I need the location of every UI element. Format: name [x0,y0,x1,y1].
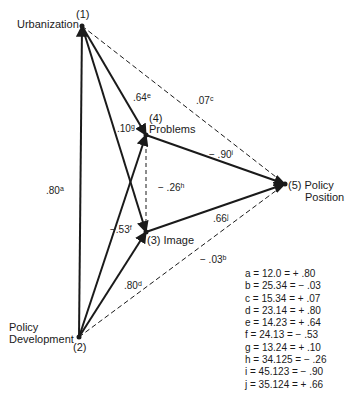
node-5-dot [283,182,288,187]
edge-a-2-1 [79,26,82,337]
coef-j: .66j [213,213,228,224]
coef-f: −.53f [110,224,132,235]
node-4-dot [144,133,149,138]
legend-row-g: g = 13.24 = + .10 [245,342,326,354]
legend-row-e: e = 14.23 = + .64 [245,317,326,329]
legend-row-d: d = 23.14 = + .80 [245,305,326,317]
legend-row-a: a = 12.0 = + .80 [245,268,326,280]
edge-g-1-3 [82,26,146,232]
coef-d: .80d [124,280,142,291]
node-4-label: Problems [149,123,195,135]
coef-c: .07c [196,95,213,106]
legend-row-c: c = 15.34 = + .07 [245,293,326,305]
legend-row-b: b = 25.34 = − .03 [245,280,326,292]
node-5-label-line1: (5) Policy [288,179,334,191]
node-1-label: Urbanization [17,18,79,30]
coefficient-legend: a = 12.0 = + .80 b = 25.34 = − .03 c = 1… [245,268,326,391]
coef-h: − .26h [158,182,184,193]
coef-e: .64e [133,92,151,103]
legend-row-j: j = 35.124 = + .66 [245,379,326,391]
edge-e-1-4 [82,26,146,135]
legend-row-f: f = 24.13 = − .53 [245,329,326,341]
node-3-label: (3) Image [147,234,194,246]
node-2-dot [77,335,82,340]
coef-g: .10g [117,123,135,134]
node-2-label-line2: Development [9,333,74,345]
edge-f-2-4 [79,135,146,337]
coef-b: − .03b [200,254,226,265]
legend-row-i: i = 45.123 = − .90 [245,366,326,378]
coef-a: .80a [46,185,64,196]
node-1-dot [80,24,85,29]
node-2-label-line1: Policy [9,321,38,333]
edge-c-1-5 [82,26,285,184]
coef-i: − .90i [209,149,233,160]
node-5-label-line2: Position [305,191,344,203]
node-2-number: (2) [73,341,86,353]
legend-row-h: h = 34.125 = − .26 [245,354,326,366]
